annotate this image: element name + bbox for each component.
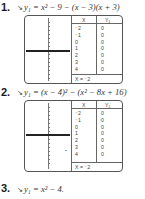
problem-2-number: 2. (1, 86, 10, 98)
table-row: 40 (72, 66, 122, 73)
table-row: 00 (72, 124, 122, 131)
table-header: X Y₁ (72, 16, 122, 24)
equation-text: y₁ = x² − 9 − (x − 3)(x + 3) (24, 2, 120, 12)
table-row: 20 (72, 52, 122, 59)
equation-text: y₁ = (x − 4)² − (x² − 8x + 16) (24, 87, 127, 97)
graph-line-y-zero (26, 134, 70, 136)
problem-1-number: 1. (1, 1, 10, 13)
table-row: ⁻10 (72, 117, 122, 124)
problem-1-equation: ↘y₁ = x² − 9 − (x − 3)(x + 3) (17, 2, 120, 12)
col-header-y1: Y₁ (105, 102, 110, 108)
col-header-x: X (82, 102, 85, 108)
problem-3-number: 3. (1, 182, 10, 194)
table-row: 00 (72, 39, 122, 46)
problem-2-equation: ↘y₁ = (x − 4)² − (x² − 8x + 16) (17, 87, 127, 97)
table-row: ⁻20 (72, 25, 122, 32)
pointer-arrow-icon: ↘ (17, 186, 23, 194)
table-row: 40 (72, 151, 122, 158)
cursor-dot-icon: • (65, 148, 67, 153)
graph-line-y-zero (26, 50, 70, 52)
table-header: X Y₁ (72, 101, 122, 109)
problem-3-equation: ↘y₁ = x² − 4. (17, 184, 64, 194)
table-row: ⁻10 (72, 32, 122, 39)
table-row: 20 (72, 137, 122, 144)
col-header-y1: Y₁ (105, 17, 110, 23)
value-table: X Y₁ ⁻20 ⁻10 00 10 20 30 40 X = ⁻2 (71, 16, 122, 83)
calculator-screen-2: • X Y₁ ⁻20 ⁻10 00 10 20 30 40 X = ⁻2 (24, 100, 123, 172)
table-row: 10 (72, 45, 122, 52)
graph-area (25, 16, 71, 83)
table-row: 30 (72, 59, 122, 66)
pointer-arrow-icon: ↘ (17, 89, 23, 97)
calculator-screen-1: X Y₁ ⁻20 ⁻10 00 10 20 30 40 X = ⁻2 (24, 15, 123, 84)
pointer-arrow-icon: ↘ (17, 4, 23, 12)
table-footer: X = ⁻2 (72, 162, 122, 171)
equation-text: y₁ = x² − 4. (24, 184, 64, 194)
table-row: ⁻20 (72, 110, 122, 117)
graph-area: • (25, 101, 71, 171)
table-row: 30 (72, 144, 122, 151)
table-row: 10 (72, 130, 122, 137)
table-footer: X = ⁻2 (72, 74, 122, 83)
value-table: X Y₁ ⁻20 ⁻10 00 10 20 30 40 X = ⁻2 (71, 101, 122, 171)
col-header-x: X (82, 17, 85, 23)
